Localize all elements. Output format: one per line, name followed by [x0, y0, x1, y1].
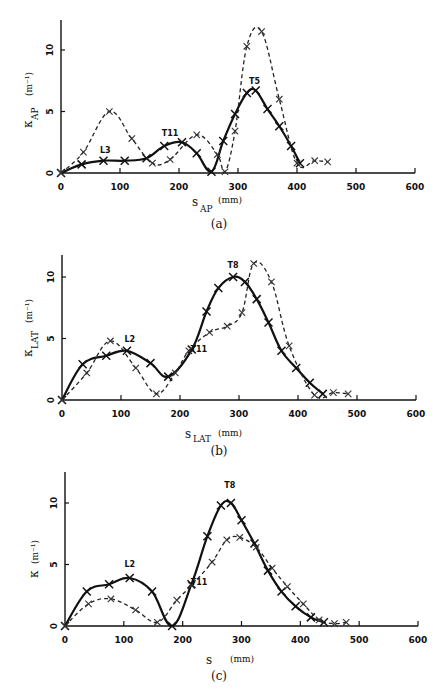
- vertebra-label: L3: [100, 146, 111, 155]
- panel-b: 01002003004005006000510L2T11T8: [46, 255, 425, 419]
- x-marker-icon: [258, 28, 264, 34]
- x-marker-icon: [149, 160, 155, 166]
- x-marker-icon: [129, 135, 135, 141]
- x-marker-icon: [80, 149, 86, 155]
- x-tick-label: 200: [171, 409, 190, 419]
- svg-text:0: 0: [45, 170, 55, 176]
- y-tick-label: 10: [49, 497, 59, 510]
- y-tick-label: 10: [45, 44, 55, 57]
- x-tick-label: 0: [59, 409, 65, 419]
- panel-b-xlabel: s LAT (mm): [185, 427, 242, 444]
- x-tick-label: 300: [229, 182, 248, 192]
- x-marker-icon: [83, 588, 91, 596]
- x-marker-icon: [243, 89, 251, 97]
- x-tick-label: 200: [173, 635, 192, 645]
- svg-text:(mm): (mm): [230, 654, 254, 664]
- svg-text:AP: AP: [30, 107, 40, 121]
- svg-text:κ: κ: [21, 349, 35, 357]
- x-marker-icon: [238, 516, 246, 524]
- x-marker-icon: [265, 319, 273, 327]
- svg-text:(mm): (mm): [218, 195, 242, 205]
- x-marker-icon: [253, 295, 261, 303]
- x-marker-icon: [224, 537, 230, 543]
- svg-text:5: 5: [49, 561, 59, 567]
- x-marker-icon: [227, 499, 235, 507]
- x-marker-icon: [174, 597, 180, 603]
- x-marker-icon: [251, 260, 257, 266]
- panel-a-ylabel: κ AP (m⁻¹): [21, 72, 40, 128]
- x-marker-icon: [306, 379, 314, 387]
- svg-text:10: 10: [46, 271, 56, 284]
- y-tick-label: 0: [46, 397, 56, 403]
- x-tick-label: 600: [406, 182, 425, 192]
- x-marker-icon: [84, 370, 90, 376]
- x-marker-icon: [324, 159, 330, 165]
- svg-text:s: s: [192, 195, 198, 209]
- solid-curve: [65, 501, 324, 626]
- x-marker-icon: [252, 87, 260, 95]
- panel-c-ylabel: κ (m⁻¹): [27, 540, 41, 578]
- panel-a: 01002003004005006000510L3T11T5: [45, 20, 424, 192]
- x-marker-icon: [147, 359, 155, 367]
- svg-text:0: 0: [49, 623, 59, 629]
- svg-text:5: 5: [46, 335, 56, 341]
- x-marker-icon: [278, 588, 286, 596]
- x-marker-icon: [85, 601, 91, 607]
- y-tick-label: 5: [45, 108, 55, 114]
- y-tick-label: 0: [45, 170, 55, 176]
- x-marker-icon: [193, 149, 201, 157]
- svg-text:10: 10: [45, 44, 55, 57]
- svg-text:κ: κ: [27, 570, 41, 578]
- x-tick-label: 600: [407, 409, 426, 419]
- x-tick-label: 100: [112, 409, 131, 419]
- panel-a-caption: (a): [211, 217, 228, 231]
- x-marker-icon: [167, 156, 173, 162]
- x-marker-icon: [311, 392, 317, 398]
- x-tick-label: 100: [111, 182, 130, 192]
- vertebra-label: L2: [125, 335, 136, 344]
- svg-text:(m⁻¹): (m⁻¹): [24, 72, 34, 96]
- y-tick-label: 10: [46, 271, 56, 284]
- x-tick-label: 400: [289, 409, 308, 419]
- x-marker-icon: [286, 343, 292, 349]
- svg-text:5: 5: [45, 108, 55, 114]
- panel-a-xlabel: s AP (mm): [192, 195, 242, 214]
- svg-text:s: s: [206, 653, 212, 667]
- vertebra-label: T11: [191, 578, 208, 587]
- x-tick-label: 0: [62, 635, 68, 645]
- vertebra-label: L2: [124, 560, 135, 569]
- x-marker-icon: [133, 365, 139, 371]
- x-tick-label: 400: [291, 635, 310, 645]
- x-marker-icon: [277, 347, 285, 355]
- vertebra-label: T11: [162, 129, 179, 138]
- svg-text:10: 10: [49, 497, 59, 510]
- vertebra-label: T5: [249, 77, 260, 86]
- x-marker-icon: [132, 607, 138, 613]
- svg-text:0: 0: [46, 397, 56, 403]
- x-marker-icon: [153, 391, 159, 397]
- x-marker-icon: [209, 559, 215, 565]
- y-tick-label: 0: [49, 623, 59, 629]
- x-marker-icon: [284, 583, 290, 589]
- x-tick-label: 500: [347, 182, 366, 192]
- x-tick-label: 0: [58, 182, 64, 192]
- x-tick-label: 400: [288, 182, 307, 192]
- x-tick-label: 300: [230, 409, 249, 419]
- x-tick-label: 300: [232, 635, 251, 645]
- x-marker-icon: [160, 142, 168, 150]
- x-marker-icon: [292, 602, 300, 610]
- x-marker-icon: [206, 329, 212, 335]
- svg-text:(mm): (mm): [218, 428, 242, 438]
- x-marker-icon: [217, 501, 225, 509]
- x-tick-label: 500: [348, 409, 367, 419]
- y-tick-label: 5: [49, 561, 59, 567]
- panel-b-caption: (b): [210, 444, 227, 458]
- x-marker-icon: [264, 567, 272, 575]
- vertebra-label: T11: [191, 345, 208, 354]
- svg-text:AP: AP: [199, 204, 213, 214]
- x-marker-icon: [224, 323, 230, 329]
- x-tick-label: 100: [114, 635, 133, 645]
- x-marker-icon: [239, 309, 245, 315]
- solid-curve: [61, 89, 300, 173]
- x-marker-icon: [106, 108, 112, 114]
